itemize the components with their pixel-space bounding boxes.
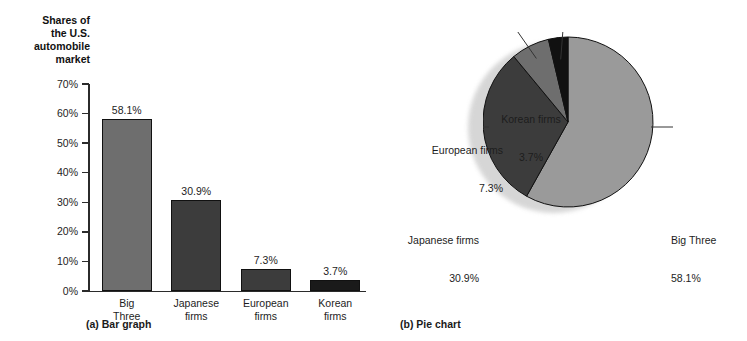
bar-value-label: 7.3% [231,254,301,266]
pie-chart-caption: (b) Pie chart [400,318,461,330]
y-axis-tick-label: 20% [42,225,78,237]
pie-callout-big-three-name: Big Three [671,234,747,247]
y-axis-tick-label: 0% [42,285,78,297]
y-axis-tick-label: 10% [42,255,78,267]
pie-callout-european-firms: European firms 7.3% [393,119,503,219]
y-axis-tick-label: 50% [42,137,78,149]
bar-graph-panel: Shares of the U.S. automobile market 70%… [0,0,373,341]
y-axis-title: Shares of the U.S. automobile market [8,14,90,66]
pie-callout-japanese-firms-value: 30.9% [368,272,479,285]
figure-root: Shares of the U.S. automobile market 70%… [0,0,747,341]
bar [310,280,360,291]
pie-chart-panel: Korean firms 3.7% European firms 7.3% Ja… [373,0,747,341]
bar-graph-caption: (a) Bar graph [86,318,151,330]
pie-callout-european-firms-name: European firms [393,144,503,157]
bar [241,269,291,291]
x-axis-category-label: Japanese firms [157,297,235,322]
y-axis-tick-label: 40% [42,166,78,178]
pie-callout-big-three-value: 58.1% [671,272,747,285]
y-axis-tick-label: 30% [42,196,78,208]
pie-callout-big-three: Big Three 58.1% [671,209,747,309]
x-axis-category-label: Korean firms [296,297,374,322]
x-axis-category-label: European firms [227,297,305,322]
bar-value-label: 58.1% [92,104,162,116]
pie-callout-japanese-firms: Japanese firms 30.9% [368,209,479,309]
bar-value-label: 3.7% [300,265,370,277]
bar [102,119,152,291]
bar-value-label: 30.9% [161,185,231,197]
bar [171,200,221,291]
y-axis-tick-label: 70% [42,78,78,90]
y-axis-tick-label: 60% [42,107,78,119]
pie-callout-european-firms-value: 7.3% [393,182,503,195]
pie-callout-japanese-firms-name: Japanese firms [368,234,479,247]
